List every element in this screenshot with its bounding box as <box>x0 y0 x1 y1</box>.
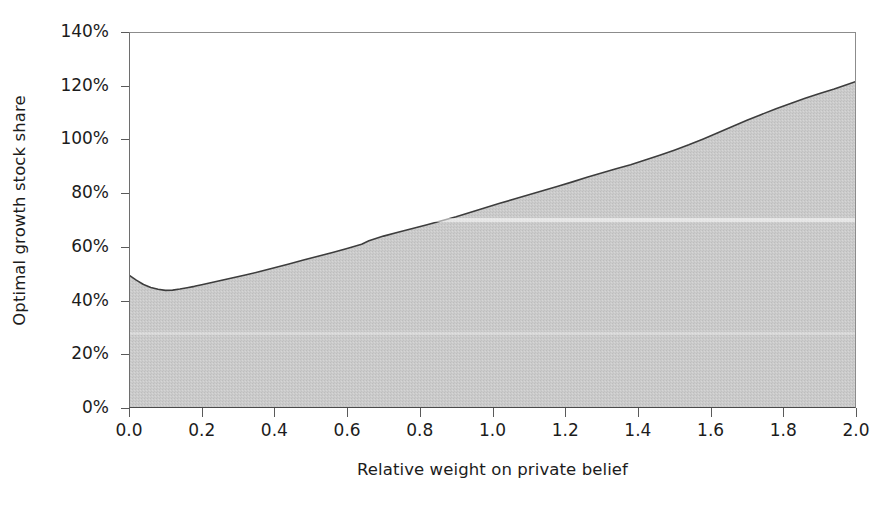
x-axis-tick <box>711 408 712 417</box>
x-axis-tick-label: 1.4 <box>608 420 668 440</box>
plot-area <box>129 32 856 408</box>
y-axis-tick-label-text: 40% <box>71 290 109 310</box>
x-axis-tick-label: 1.6 <box>681 420 741 440</box>
x-axis-tick-label: 1.0 <box>463 420 523 440</box>
x-axis-tick <box>493 408 494 417</box>
x-axis-tick-label: 0.0 <box>99 420 159 440</box>
x-axis-tick-label: 0.2 <box>172 420 232 440</box>
y-axis-tick-label-text: 120% <box>60 75 109 95</box>
x-axis-tick <box>129 408 130 417</box>
x-axis-title: Relative weight on private belief <box>129 460 856 479</box>
y-axis-tick <box>121 247 129 248</box>
y-axis-tick <box>121 301 129 302</box>
y-axis-tick <box>121 86 129 87</box>
y-axis-tick <box>121 408 129 409</box>
x-axis-tick-label: 0.8 <box>390 420 450 440</box>
y-axis-tick-label-text: 60% <box>71 236 109 256</box>
x-axis-tick <box>638 408 639 417</box>
plot-frame <box>129 32 856 408</box>
y-axis-title: Optimal growth stock share <box>0 0 38 420</box>
y-axis-tick <box>121 32 129 33</box>
y-axis-tick <box>121 193 129 194</box>
x-axis-tick-label: 0.6 <box>317 420 377 440</box>
x-axis-tick <box>783 408 784 417</box>
x-axis-tick-label: 1.2 <box>535 420 595 440</box>
chart-figure: Optimal growth stock share 0%20%40%60%80… <box>0 0 884 507</box>
x-axis-tick <box>856 408 857 417</box>
x-axis-tick <box>274 408 275 417</box>
x-axis-tick <box>420 408 421 417</box>
x-axis-tick-label: 2.0 <box>826 420 884 440</box>
x-axis-tick <box>565 408 566 417</box>
x-axis-tick <box>202 408 203 417</box>
x-axis-tick-label: 0.4 <box>244 420 304 440</box>
y-axis-tick-label-text: 20% <box>71 343 109 363</box>
x-axis-tick <box>347 408 348 417</box>
y-axis-tick-label-text: 140% <box>60 21 109 41</box>
y-axis-tick-label-text: 80% <box>71 182 109 202</box>
y-axis-tick <box>121 354 129 355</box>
y-axis-title-text: Optimal growth stock share <box>10 95 29 326</box>
y-axis-tick-label-text: 0% <box>82 397 109 417</box>
y-axis-tick-label-text: 100% <box>60 128 109 148</box>
y-axis-tick <box>121 139 129 140</box>
x-axis-tick-label: 1.8 <box>753 420 813 440</box>
